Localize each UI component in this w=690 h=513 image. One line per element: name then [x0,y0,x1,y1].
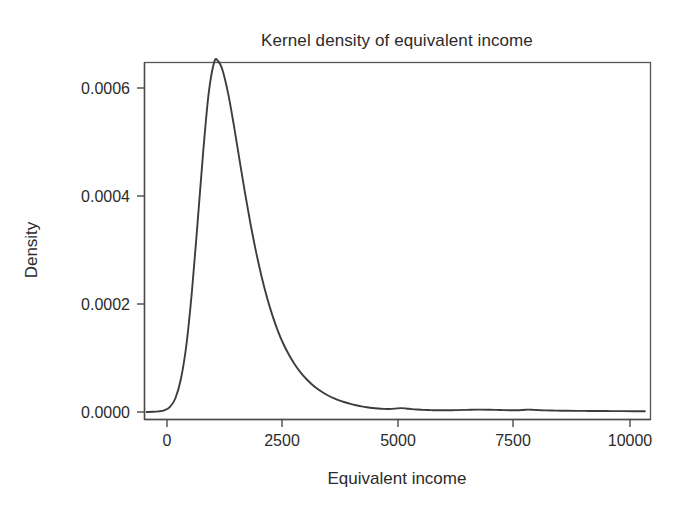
y-axis-title: Density [22,221,41,278]
x-tick-label-10000: 10000 [608,432,653,449]
chart-background [0,0,690,513]
kernel-density-figure: Kernel density of equivalent income 0.00… [0,0,690,513]
y-tick-label-0.0000: 0.0000 [81,404,130,421]
density-chart-canvas: Kernel density of equivalent income 0.00… [0,0,690,513]
x-tick-label-7500: 7500 [495,432,531,449]
y-tick-label-0.0006: 0.0006 [81,80,130,97]
x-tick-label-2500: 2500 [264,432,300,449]
y-tick-label-0.0004: 0.0004 [81,188,130,205]
x-axis-title: Equivalent income [328,469,467,488]
x-tick-label-5000: 5000 [380,432,416,449]
x-tick-label-0: 0 [163,432,172,449]
chart-title: Kernel density of equivalent income [261,31,533,50]
y-tick-label-0.0002: 0.0002 [81,296,130,313]
